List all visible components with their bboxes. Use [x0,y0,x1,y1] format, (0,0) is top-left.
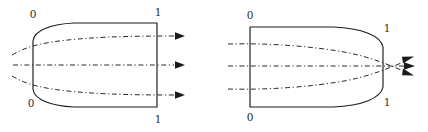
right-label-outlet-top: 1 [384,22,391,34]
right-domain-boundary [250,27,383,107]
left-label-inlet-bottom: 0 [28,97,35,109]
right-streamline-upper [228,44,406,72]
right-arrow-upper-icon [402,69,414,76]
right-arrow-center-icon [404,62,415,70]
left-arrow-center-icon [175,61,185,69]
right-label-inlet-top: 0 [247,9,254,21]
right-label-inlet-bottom: 0 [247,111,254,123]
figure-board: 0 1 0 1 0 1 0 1 [0,0,428,132]
left-label-outlet-bottom: 1 [155,113,162,125]
right-label-outlet-bottom: 1 [384,96,391,108]
right-domain: 0 1 0 1 [228,9,415,123]
left-arrow-lower-icon [175,91,185,99]
left-label-inlet-top: 0 [30,8,37,20]
left-arrow-upper-icon [175,32,185,40]
diagram-canvas: 0 1 0 1 0 1 0 1 [0,0,428,132]
left-domain: 0 1 0 1 [12,6,185,125]
left-streamline-upper [12,36,174,55]
left-streamline-lower [12,76,174,95]
right-streamline-lower [228,61,406,89]
right-arrow-lower-icon [402,57,414,64]
left-label-outlet-top: 1 [155,6,162,18]
